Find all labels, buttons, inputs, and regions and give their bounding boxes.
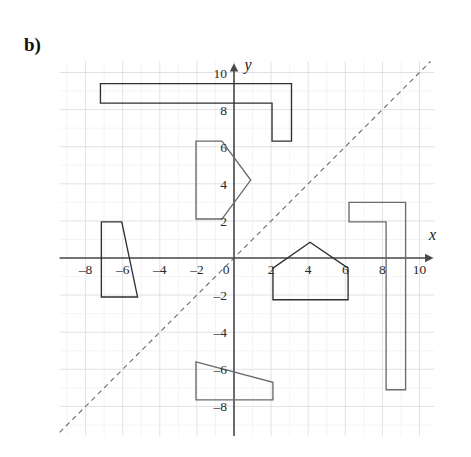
x-tick-label: 2: [268, 262, 275, 277]
grid-layer: [60, 61, 435, 436]
y-tick-label: –6: [213, 362, 228, 377]
y-tick-label: 10: [214, 66, 228, 81]
x-tick-label: –8: [78, 262, 93, 277]
y-tick-label: –8: [213, 399, 228, 414]
y-tick-label: 4: [220, 177, 227, 192]
x-tick-label: –2: [189, 262, 204, 277]
x-tick-label: –6: [115, 262, 130, 277]
y-tick-label: 2: [220, 214, 227, 229]
coordinate-plane-figure: b) xy–8–6–4–22468100108642–2–4–6–8: [0, 0, 471, 457]
x-axis-label: x: [428, 226, 436, 243]
x-tick-label: 6: [342, 262, 349, 277]
y-axis-label: y: [242, 56, 252, 74]
y-tick-label: 8: [220, 103, 227, 118]
x-tick-label: 10: [413, 262, 427, 277]
y-tick-label: –4: [213, 325, 228, 340]
x-tick-label: 8: [379, 262, 386, 277]
x-tick-label: –4: [152, 262, 167, 277]
x-tick-label: 4: [305, 262, 312, 277]
plot-background: [60, 61, 435, 436]
origin-label: 0: [223, 262, 230, 277]
part-label: b): [24, 34, 41, 56]
y-tick-label: –2: [213, 288, 228, 303]
y-tick-label: 6: [220, 140, 227, 155]
coordinate-plot-svg: xy–8–6–4–22468100108642–2–4–6–8: [0, 0, 471, 457]
